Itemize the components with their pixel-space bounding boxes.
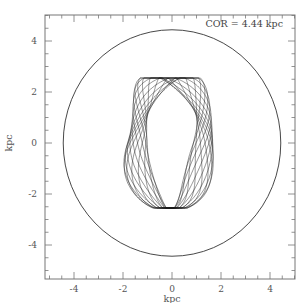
x-tick-label: -2: [119, 284, 128, 294]
y-tick-label: 0: [31, 138, 37, 148]
orbit-chart: -4-2024 -4-2024 kpc kpc COR = 4.44 kpc: [0, 0, 308, 303]
y-tick-labels: -4-2024: [28, 36, 37, 250]
y-tick-label: 2: [31, 87, 37, 97]
y-axis-label: kpc: [3, 134, 14, 151]
y-tick-label: 4: [31, 36, 37, 46]
x-tick-label: 2: [218, 284, 224, 294]
plot-frame: [45, 15, 295, 279]
x-tick-label: -4: [70, 284, 79, 294]
x-axis-label: kpc: [163, 293, 180, 303]
axis-ticks: [45, 15, 295, 279]
orbit-trace: [124, 78, 213, 208]
y-tick-label: -4: [28, 240, 37, 250]
corotation-annotation: COR = 4.44 kpc: [205, 18, 283, 29]
x-tick-label: 4: [267, 284, 273, 294]
y-tick-label: -2: [28, 189, 37, 199]
corotation-circle: [63, 30, 281, 256]
